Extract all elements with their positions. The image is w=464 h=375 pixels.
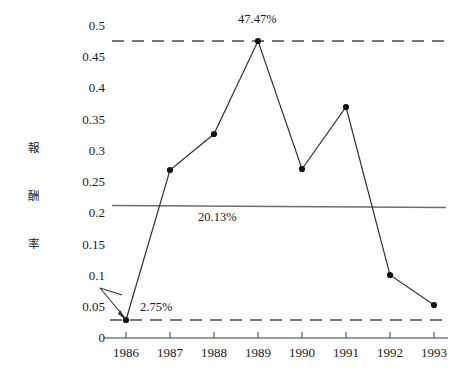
data-point-1988 xyxy=(211,131,217,137)
mean-reference-line xyxy=(112,206,446,208)
data-point-1989 xyxy=(255,38,261,44)
data-point-1987 xyxy=(167,167,173,173)
data-point-1990 xyxy=(299,166,305,172)
min-annotation-arrow xyxy=(100,288,126,320)
data-point-1992 xyxy=(387,272,393,278)
data-point-1993 xyxy=(431,302,437,308)
data-point-1991 xyxy=(343,104,349,110)
return-rate-line-chart: 報 酬 率 0.5 0.45 0.4 0.35 0.3 0.25 0.2 0.1… xyxy=(0,0,464,375)
data-series-line xyxy=(126,41,434,320)
plot-area xyxy=(0,0,464,375)
